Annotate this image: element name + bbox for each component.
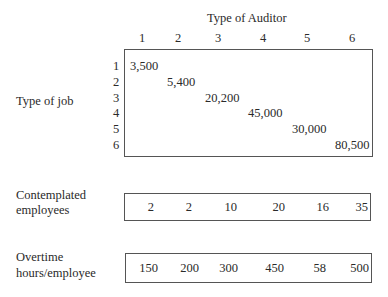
contemplated-label-line1: Contemplated: [16, 188, 86, 203]
column-header: 4: [253, 31, 273, 46]
column-header: 1: [132, 31, 152, 46]
auditor-header: Type of Auditor: [207, 11, 287, 26]
row-header: 2: [113, 75, 119, 90]
row-header: 6: [113, 138, 119, 153]
matrix-cell: 30,000: [292, 122, 326, 137]
overtime-label-line2: hours/employee: [16, 266, 96, 281]
row-header: 4: [113, 106, 119, 121]
contemplated-label-line2: employees: [16, 203, 69, 218]
row-header: 5: [113, 122, 119, 137]
column-header: 3: [208, 31, 228, 46]
overtime-value: 500: [309, 261, 369, 276]
column-header: 5: [297, 31, 317, 46]
matrix-cell: 3,500: [130, 59, 158, 74]
job-label: Type of job: [16, 94, 73, 109]
matrix-cell: 20,200: [205, 91, 239, 106]
column-header: 2: [168, 31, 188, 46]
row-header: 3: [113, 91, 119, 106]
matrix-cell: 5,400: [167, 75, 195, 90]
matrix-cell: 80,500: [335, 138, 369, 153]
contemplated-value: 35: [308, 200, 368, 215]
matrix-cell: 45,000: [248, 106, 282, 121]
overtime-label-line1: Overtime: [16, 250, 63, 265]
column-header: 6: [342, 31, 362, 46]
row-header: 1: [113, 59, 119, 74]
